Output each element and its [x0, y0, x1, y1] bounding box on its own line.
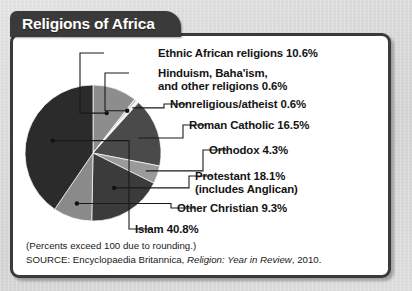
callout-label-ethnic-african: Ethnic African religions 10.6% [158, 47, 318, 60]
callout-label-nonreligious: Nonreligious/atheist 0.6% [170, 98, 306, 111]
callout-label-other-christian: Other Christian 9.3% [177, 202, 287, 215]
page-title: Religions of Africa [22, 15, 155, 33]
footnote-source-title: Religion: Year in Review [187, 254, 292, 265]
chart-panel: Ethnic African religions 10.6% Hinduism,… [10, 33, 391, 278]
footnote-source-prefix: SOURCE: Encyclopaedia Britannica, [26, 254, 187, 265]
footnotes: (Percents exceed 100 due to rounding.) S… [26, 239, 321, 266]
callout-label-protestant: Protestant 18.1% (includes Anglican) [195, 170, 298, 196]
callout-label-roman-catholic: Roman Catholic 16.5% [189, 119, 309, 132]
footnote-rounding: (Percents exceed 100 due to rounding.) [26, 239, 321, 253]
callout-label-hinduism-line2: and other religions 0.6% [158, 80, 287, 92]
footnote-source: SOURCE: Encyclopaedia Britannica, Religi… [26, 253, 321, 267]
callout-label-hinduism-line1: Hinduism, Baha'ism, [158, 67, 268, 79]
footnote-source-suffix: , 2010. [292, 254, 322, 265]
callout-label-hinduism: Hinduism, Baha'ism, and other religions … [158, 67, 287, 93]
callout-label-protestant-line2: (includes Anglican) [195, 183, 298, 195]
pie-chart-area: Ethnic African religions 10.6% Hinduism,… [13, 36, 388, 241]
callout-label-orthodox: Orthodox 4.3% [209, 144, 288, 157]
callout-label-islam: Islam 40.8% [135, 223, 199, 236]
callout-label-protestant-line1: Protestant 18.1% [195, 170, 285, 182]
title-tab: Religions of Africa [10, 11, 181, 37]
